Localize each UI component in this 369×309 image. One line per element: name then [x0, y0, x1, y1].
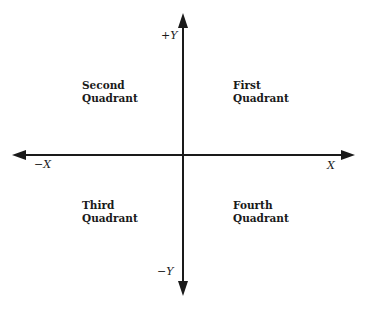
- third-quadrant-line2: Quadrant: [82, 212, 138, 225]
- quadrant-diagram: +Y −Y −X X Second Quadrant First Quadran…: [0, 0, 369, 309]
- y-positive-arrow-icon: [178, 13, 188, 28]
- second-quadrant-label: Second Quadrant: [82, 79, 138, 105]
- second-quadrant-line1: Second: [82, 79, 138, 92]
- x-negative-label: −X: [34, 159, 51, 171]
- third-quadrant-label: Third Quadrant: [82, 199, 138, 225]
- x-positive-arrow-icon: [341, 150, 355, 160]
- x-negative-arrow-icon: [12, 150, 26, 160]
- first-quadrant-label: First Quadrant: [233, 79, 289, 105]
- fourth-quadrant-line2: Quadrant: [233, 212, 289, 225]
- first-quadrant-line1: First: [233, 79, 289, 92]
- y-negative-arrow-icon: [178, 281, 188, 296]
- y-positive-label: +Y: [161, 30, 177, 42]
- third-quadrant-line1: Third: [82, 199, 138, 212]
- x-positive-label: X: [327, 160, 335, 172]
- coordinate-axes: [0, 0, 369, 309]
- y-negative-label: −Y: [157, 266, 173, 278]
- fourth-quadrant-line1: Fourth: [233, 199, 289, 212]
- second-quadrant-line2: Quadrant: [82, 92, 138, 105]
- fourth-quadrant-label: Fourth Quadrant: [233, 199, 289, 225]
- first-quadrant-line2: Quadrant: [233, 92, 289, 105]
